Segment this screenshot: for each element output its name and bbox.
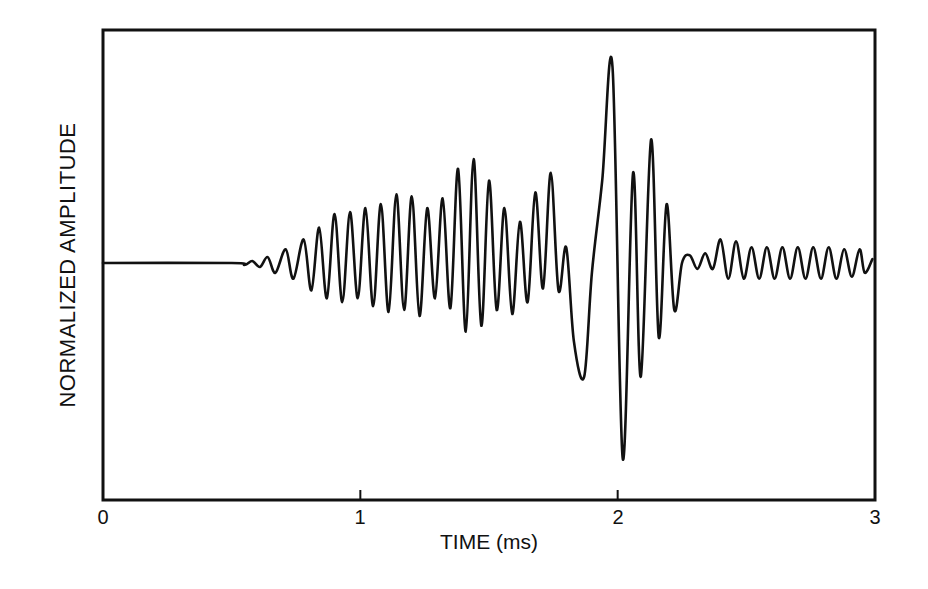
x-tick-label-0: 0 bbox=[97, 506, 108, 529]
chart-canvas bbox=[0, 0, 928, 589]
y-axis-label: NORMALIZED AMPLITUDE bbox=[55, 122, 81, 407]
x-tick-label-2: 2 bbox=[612, 506, 623, 529]
x-tick-label-3: 3 bbox=[869, 506, 880, 529]
x-tick-label-1: 1 bbox=[354, 506, 365, 529]
waveform-line bbox=[103, 57, 872, 460]
x-axis-label: TIME (ms) bbox=[440, 530, 538, 554]
plot-frame bbox=[103, 30, 875, 500]
